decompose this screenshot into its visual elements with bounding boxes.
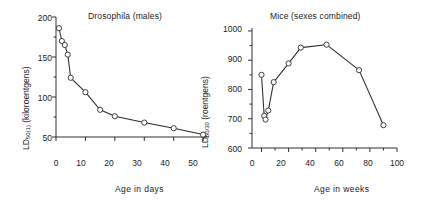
plot-area-drosophila xyxy=(0,0,222,214)
panel-drosophila: Drosophila (males) LD50(1) (kiloroentgen… xyxy=(0,0,222,214)
y-axis-title-right: LD50/30 (roentgens) xyxy=(200,76,210,148)
plot-area-mice xyxy=(222,0,444,214)
panel-mice: Mice (sexes combined) LD50/30 (roentgens… xyxy=(222,0,444,214)
y-axis-title-right-suffix: (roentgens) xyxy=(200,76,210,122)
y-axis-title-right-prefix: LD xyxy=(200,137,210,148)
figure-container: Drosophila (males) LD50(1) (kiloroentgen… xyxy=(0,0,444,214)
y-axis-title-right-subscript: 50/30 xyxy=(204,122,210,137)
